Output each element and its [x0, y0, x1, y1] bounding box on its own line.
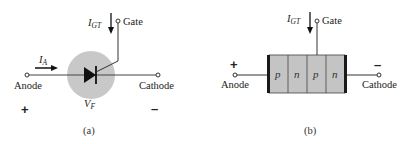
gate-current-label: IGT	[87, 17, 102, 30]
panel-a-caption: (a)	[83, 125, 95, 137]
gate-label: Gate	[322, 15, 342, 26]
cathode-label: Cathode	[139, 80, 174, 91]
gate-arrow-head-icon	[108, 27, 114, 34]
layer-4-label: n	[332, 68, 338, 80]
cathode-polarity: –	[151, 101, 158, 116]
gate-current-label: IGT	[286, 13, 301, 26]
gate-arrow-head-icon	[307, 27, 313, 34]
forward-voltage-label: VF	[84, 98, 95, 111]
gate-label: Gate	[123, 16, 143, 27]
cathode-contact	[344, 55, 347, 93]
anode-label: Anode	[14, 80, 42, 91]
gate-terminal	[315, 19, 319, 23]
layer-1-label: p	[274, 68, 281, 80]
anode-polarity: +	[230, 57, 238, 72]
gate-terminal	[116, 19, 120, 23]
anode-current-label: IA	[38, 54, 48, 67]
panel-b-pnpn-structure: p n p n IGT Gate + – Anode Cathode (b)	[221, 12, 397, 137]
anode-terminal	[25, 73, 29, 77]
anode-label: Anode	[221, 79, 249, 90]
panel-b-caption: (b)	[304, 125, 317, 137]
cathode-terminal	[377, 73, 381, 77]
layer-3-label: p	[312, 68, 319, 80]
layer-2-label: n	[294, 68, 300, 80]
cathode-polarity: –	[374, 57, 381, 72]
anode-contact	[267, 55, 270, 93]
panel-a-scr-symbol: IGT Gate IA Anode Cathode VF + – (a)	[14, 13, 174, 137]
anode-terminal	[233, 73, 237, 77]
anode-polarity: +	[21, 102, 29, 117]
cathode-label: Cathode	[362, 79, 397, 90]
cathode-terminal	[156, 73, 160, 77]
scr-diagram: IGT Gate IA Anode Cathode VF + – (a) p n…	[0, 0, 409, 144]
anode-arrow-head-icon	[51, 65, 58, 71]
